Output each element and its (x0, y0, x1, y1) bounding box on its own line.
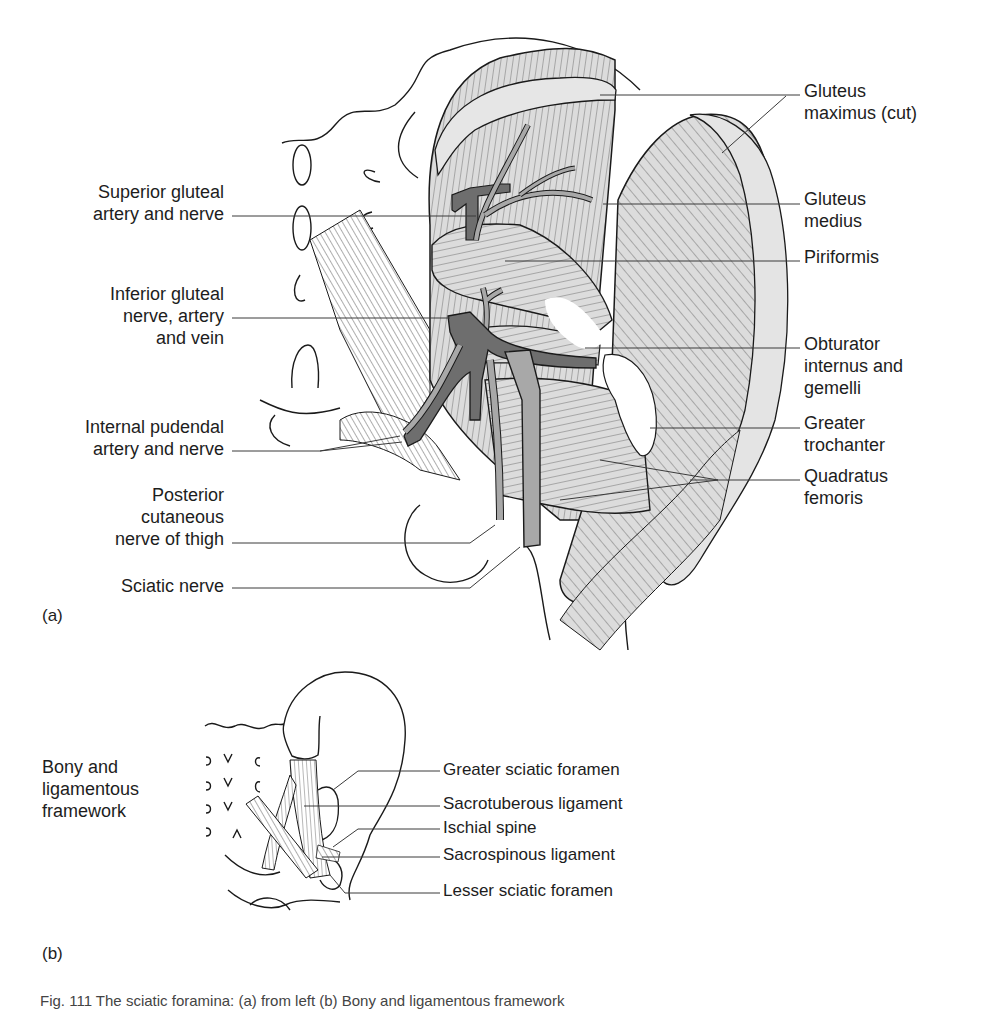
label-lesser-sciatic-foramen: Lesser sciatic foramen (443, 881, 613, 901)
label-gluteus-medius: Gluteus medius (804, 188, 866, 232)
label-greater-sciatic-foramen: Greater sciatic foramen (443, 760, 620, 780)
label-obturator-internus-gemelli: Obturator internus and gemelli (804, 333, 903, 399)
figure-caption: Fig. 111 The sciatic foramina: (a) from … (40, 992, 564, 1009)
label-greater-trochanter: Greater trochanter (804, 412, 885, 456)
label-sacrospinous-ligament: Sacrospinous ligament (443, 845, 615, 865)
label-internal-pudendal-artery-nerve: Internal pudendal artery and nerve (85, 416, 224, 460)
label-quadratus-femoris: Quadratus femoris (804, 465, 888, 509)
label-sacrotuberous-ligament: Sacrotuberous ligament (443, 794, 623, 814)
label-superior-gluteal-artery-nerve: Superior gluteal artery and nerve (93, 181, 224, 225)
panel-b-side-title: Bony and ligamentous framework (42, 756, 139, 822)
panel-b-tag: (b) (42, 944, 63, 964)
label-posterior-cutaneous-nerve-of-thigh: Posterior cutaneous nerve of thigh (115, 484, 224, 550)
label-ischial-spine: Ischial spine (443, 818, 537, 838)
panel-a-tag: (a) (42, 606, 63, 626)
label-piriformis: Piriformis (804, 246, 879, 268)
label-gluteus-maximus-cut: Gluteus maximus (cut) (804, 80, 917, 124)
label-inferior-gluteal-nerve-artery-vein: Inferior gluteal nerve, artery and vein (110, 283, 224, 349)
label-sciatic-nerve: Sciatic nerve (121, 575, 224, 597)
